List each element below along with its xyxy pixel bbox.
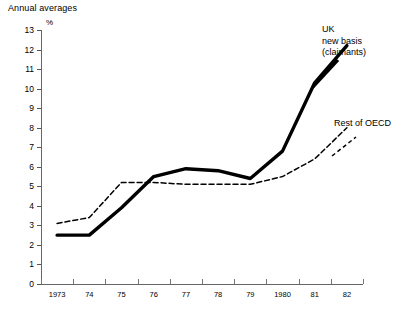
label-leader-lines bbox=[0, 0, 408, 310]
unemployment-line-chart: Annual averages % 131211109876543210 197… bbox=[0, 0, 408, 310]
uk-leader-line bbox=[313, 60, 338, 87]
oecd-leader-line bbox=[332, 137, 356, 156]
